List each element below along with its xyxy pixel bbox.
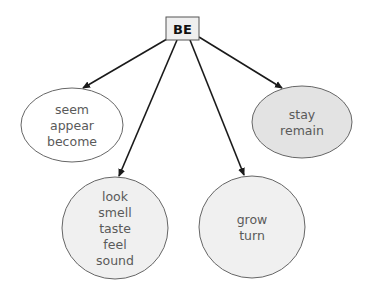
verb-label: look bbox=[102, 189, 129, 204]
verb-label: sound bbox=[96, 253, 134, 268]
verb-label: taste bbox=[99, 221, 131, 236]
be-verb-diagram: seemappearbecomelooksmelltastefeelsoundg… bbox=[0, 0, 369, 293]
nodes: seemappearbecomelooksmelltastefeelsoundg… bbox=[21, 17, 352, 279]
verb-label: feel bbox=[103, 237, 126, 252]
arrow-root-to-senses-group bbox=[119, 40, 177, 176]
verb-label: grow bbox=[237, 212, 268, 227]
verb-label: stay bbox=[289, 107, 316, 122]
root-label: BE bbox=[173, 22, 192, 37]
node-seem-group: seemappearbecome bbox=[21, 88, 123, 162]
node-change-group: growturn bbox=[199, 176, 305, 278]
node-senses-group: looksmelltastefeelsound bbox=[62, 177, 168, 279]
verb-label: become bbox=[47, 134, 97, 149]
verb-label: turn bbox=[239, 228, 265, 243]
node-stay-group: stayremain bbox=[252, 86, 352, 158]
verb-label: smell bbox=[98, 205, 131, 220]
verb-label: remain bbox=[280, 123, 324, 138]
verb-label: appear bbox=[50, 118, 95, 133]
arrow-root-to-stay-group bbox=[199, 37, 282, 88]
arrow-root-to-seem-group bbox=[83, 39, 167, 88]
verb-label: seem bbox=[55, 102, 89, 117]
root-node: BE bbox=[166, 17, 199, 40]
